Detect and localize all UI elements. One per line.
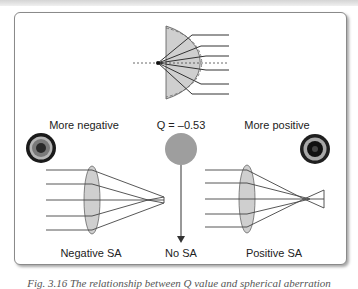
negative-sa-lens-diagram [46,166,164,234]
more-negative-label: More negative [49,119,119,131]
positive-sa-lens-diagram [205,165,324,233]
positive-spot-icon [300,134,330,164]
no-sa-spot-icon [165,133,197,243]
no-sa-label: No SA [165,247,197,259]
figure-caption: Fig. 3.16 The relationship between Q val… [27,277,331,289]
negative-spot-icon [26,133,56,163]
positive-sa-label: Positive SA [246,247,302,259]
cornea-profile-diagram [133,26,229,99]
q-value-label: Q = –0.53 [157,119,206,131]
more-positive-label: More positive [244,119,309,131]
negative-sa-label: Negative SA [60,247,121,259]
